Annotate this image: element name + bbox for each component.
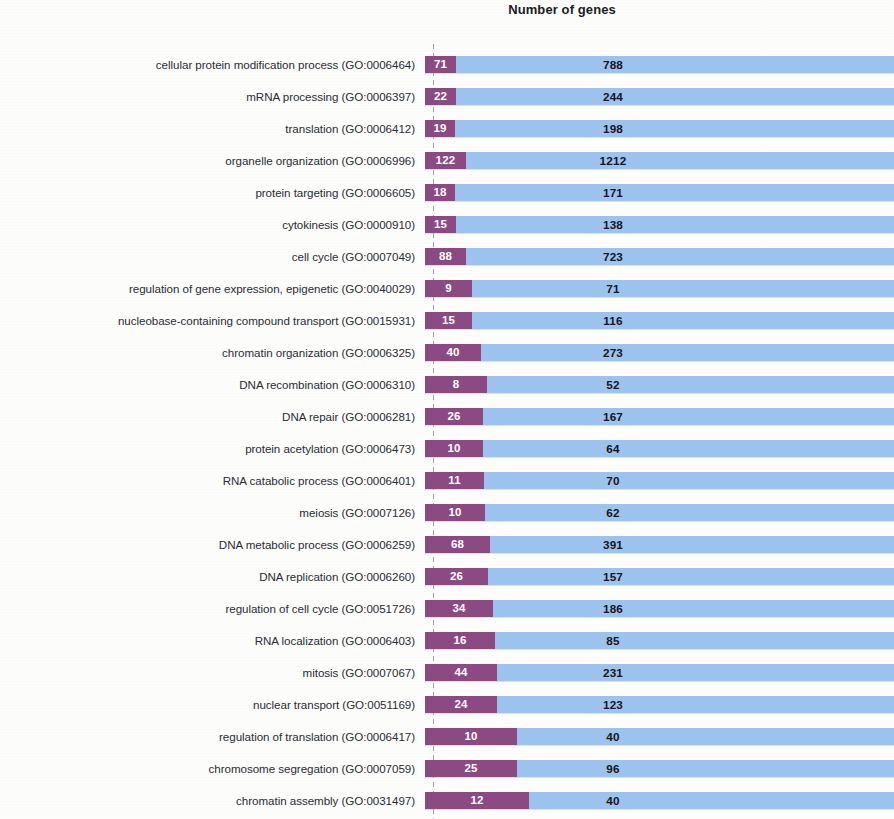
go-term-label: DNA recombination (GO:0006310) <box>0 378 424 391</box>
subset-value-label: 18 <box>425 184 455 201</box>
total-genes-bar-segment <box>425 152 894 169</box>
total-genes-bar-segment <box>425 280 894 297</box>
subset-value-label: 44 <box>425 664 497 681</box>
table-row: meiosis (GO:0007126)1062 <box>0 496 894 528</box>
go-term-label: cytokinesis (GO:0000910) <box>0 218 424 231</box>
go-term-label: cell cycle (GO:0007049) <box>0 250 424 263</box>
subset-value-label: 71 <box>425 56 456 73</box>
total-value-label: 64 <box>587 440 639 457</box>
total-value-label: 723 <box>587 248 639 265</box>
go-term-label: regulation of cell cycle (GO:0051726) <box>0 602 424 615</box>
table-row: nuclear transport (GO:0051169)24123 <box>0 688 894 720</box>
go-term-label: cellular protein modification process (G… <box>0 58 424 71</box>
total-genes-bar-segment <box>425 56 894 73</box>
go-term-label: protein targeting (GO:0006605) <box>0 186 424 199</box>
total-value-label: 198 <box>587 120 639 137</box>
table-row: chromatin organization (GO:0006325)40273 <box>0 336 894 368</box>
go-term-label: chromatin organization (GO:0006325) <box>0 346 424 359</box>
table-row: translation (GO:0006412)19198 <box>0 112 894 144</box>
go-term-label: chromosome segregation (GO:0007059) <box>0 762 424 775</box>
total-genes-bar-segment <box>425 376 894 393</box>
go-term-label: translation (GO:0006412) <box>0 122 424 135</box>
go-term-label: mRNA processing (GO:0006397) <box>0 90 424 103</box>
table-row: RNA localization (GO:0006403)1685 <box>0 624 894 656</box>
total-genes-bar-segment <box>425 536 894 553</box>
total-value-label: 244 <box>587 88 639 105</box>
total-genes-bar-segment <box>425 216 894 233</box>
stacked-bar: 44231 <box>425 664 894 681</box>
go-term-label: organelle organization (GO:0006996) <box>0 154 424 167</box>
table-row: DNA metabolic process (GO:0006259)68391 <box>0 528 894 560</box>
total-value-label: 52 <box>587 376 639 393</box>
total-value-label: 40 <box>587 728 639 745</box>
stacked-bar: 1221212 <box>425 152 894 169</box>
total-value-label: 1212 <box>587 152 639 169</box>
stacked-bar: 971 <box>425 280 894 297</box>
stacked-bar: 68391 <box>425 536 894 553</box>
total-genes-bar-segment <box>425 312 894 329</box>
subset-value-label: 24 <box>425 696 497 713</box>
total-genes-bar-segment <box>425 504 894 521</box>
table-row: protein acetylation (GO:0006473)1064 <box>0 432 894 464</box>
subset-value-label: 12 <box>425 792 529 809</box>
total-genes-bar-segment <box>425 184 894 201</box>
go-term-label: chromatin assembly (GO:0031497) <box>0 794 424 807</box>
stacked-bar: 88723 <box>425 248 894 265</box>
go-term-label: nucleobase-containing compound transport… <box>0 314 424 327</box>
total-value-label: 171 <box>587 184 639 201</box>
total-value-label: 167 <box>587 408 639 425</box>
go-term-label: DNA repair (GO:0006281) <box>0 410 424 423</box>
total-value-label: 788 <box>587 56 639 73</box>
total-value-label: 123 <box>587 696 639 713</box>
go-term-label: RNA catabolic process (GO:0006401) <box>0 474 424 487</box>
total-genes-bar-segment <box>425 120 894 137</box>
total-value-label: 40 <box>587 792 639 809</box>
table-row: cellular protein modification process (G… <box>0 48 894 80</box>
total-value-label: 116 <box>587 312 639 329</box>
table-row: DNA replication (GO:0006260)26157 <box>0 560 894 592</box>
table-row: cytokinesis (GO:0000910)15138 <box>0 208 894 240</box>
stacked-bar: 2596 <box>425 760 894 777</box>
stacked-bar: 15116 <box>425 312 894 329</box>
go-term-label: DNA metabolic process (GO:0006259) <box>0 538 424 551</box>
stacked-bar: 40273 <box>425 344 894 361</box>
go-term-label: regulation of gene expression, epigeneti… <box>0 282 424 295</box>
table-row: mitosis (GO:0007067)44231 <box>0 656 894 688</box>
subset-value-label: 40 <box>425 344 481 361</box>
total-value-label: 138 <box>587 216 639 233</box>
stacked-bar: 1685 <box>425 632 894 649</box>
total-genes-bar-segment <box>425 344 894 361</box>
total-genes-bar-segment <box>425 408 894 425</box>
total-genes-bar-segment <box>425 632 894 649</box>
stacked-bar: 1064 <box>425 440 894 457</box>
total-value-label: 231 <box>587 664 639 681</box>
total-genes-bar-segment <box>425 88 894 105</box>
subset-value-label: 8 <box>425 376 487 393</box>
total-genes-bar-segment <box>425 568 894 585</box>
subset-value-label: 22 <box>425 88 456 105</box>
stacked-bar: 15138 <box>425 216 894 233</box>
stacked-bar: 22244 <box>425 88 894 105</box>
table-row: mRNA processing (GO:0006397)22244 <box>0 80 894 112</box>
stacked-bar: 71788 <box>425 56 894 73</box>
table-row: RNA catabolic process (GO:0006401)1170 <box>0 464 894 496</box>
stacked-bar: 24123 <box>425 696 894 713</box>
subset-value-label: 10 <box>425 728 517 745</box>
go-term-label: DNA replication (GO:0006260) <box>0 570 424 583</box>
subset-value-label: 68 <box>425 536 490 553</box>
stacked-bar: 34186 <box>425 600 894 617</box>
total-genes-bar-segment <box>425 248 894 265</box>
go-term-label: meiosis (GO:0007126) <box>0 506 424 519</box>
subset-value-label: 16 <box>425 632 495 649</box>
table-row: protein targeting (GO:0006605)18171 <box>0 176 894 208</box>
table-row: organelle organization (GO:0006996)12212… <box>0 144 894 176</box>
total-value-label: 186 <box>587 600 639 617</box>
stacked-bar: 1062 <box>425 504 894 521</box>
subset-value-label: 19 <box>425 120 455 137</box>
subset-value-label: 9 <box>425 280 472 297</box>
subset-value-label: 25 <box>425 760 517 777</box>
subset-value-label: 15 <box>425 216 456 233</box>
total-value-label: 85 <box>587 632 639 649</box>
table-row: DNA repair (GO:0006281)26167 <box>0 400 894 432</box>
stacked-bar: 19198 <box>425 120 894 137</box>
